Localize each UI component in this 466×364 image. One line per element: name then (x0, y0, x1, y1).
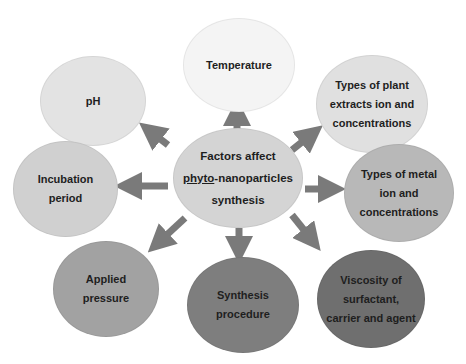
factor-label: concentrations (360, 203, 439, 222)
factor-label: extracts ion and (330, 95, 414, 114)
factor-label: carrier and agent (326, 309, 415, 328)
factor-plant-extracts: Types of plant extracts ion and concentr… (316, 55, 428, 153)
factor-label: ion and (379, 184, 418, 203)
factor-ph: pH (40, 56, 146, 146)
underlined-word: phyto (183, 172, 214, 184)
factor-label: Synthesis (217, 286, 269, 305)
factor-label: Types of metal (361, 165, 437, 184)
factor-incubation-period: Incubation period (13, 141, 118, 237)
factor-label: Incubation (38, 170, 94, 189)
factor-label: concentrations (333, 114, 412, 133)
factor-label: Temperature (206, 56, 272, 75)
factor-label: period (49, 189, 83, 208)
central-line3: synthesis (211, 189, 264, 211)
factor-label: pH (86, 92, 101, 111)
factor-label: procedure (216, 305, 270, 324)
central-subtitle: phyto-nanoparticles (183, 167, 293, 189)
factor-viscosity: Viscosity of surfactant, carrier and age… (317, 250, 425, 348)
factor-label: pressure (83, 289, 129, 308)
central-node: Factors affect phyto-nanoparticles synth… (173, 128, 303, 228)
arrow-to-viscosity (292, 215, 312, 240)
factor-synthesis-procedure: Synthesis procedure (187, 257, 299, 353)
factor-label: Viscosity of (340, 271, 402, 290)
factor-applied-pressure: Applied pressure (53, 241, 159, 337)
factor-temperature: Temperature (183, 18, 295, 112)
central-title: Factors affect (200, 145, 275, 167)
factor-metal-ion: Types of metal ion and concentrations (344, 144, 454, 242)
arrow-to-plant-extracts (292, 134, 312, 150)
arrow-to-applied-pressure (158, 218, 185, 243)
factor-label: Applied (86, 270, 126, 289)
factor-label: Types of plant (335, 76, 409, 95)
factor-label: surfactant, (343, 290, 399, 309)
arrow-to-ph (150, 131, 168, 145)
